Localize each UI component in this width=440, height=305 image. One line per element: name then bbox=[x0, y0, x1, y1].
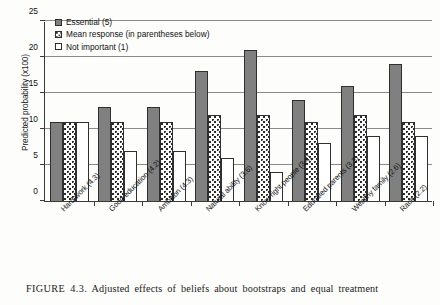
y-tick-label: 5 bbox=[33, 150, 38, 160]
x-tick-mark bbox=[385, 201, 386, 206]
bar bbox=[147, 107, 160, 201]
legend-swatch-icon bbox=[55, 31, 62, 38]
x-tick-mark bbox=[288, 201, 289, 206]
bar bbox=[50, 122, 63, 201]
chart-area: Predicted probability (x100) 0510152025 … bbox=[0, 0, 440, 272]
caption-body: Adjusted effects of beliefs about bootst… bbox=[92, 283, 379, 294]
bar bbox=[341, 86, 354, 201]
legend-item: Mean response (in parentheses below) bbox=[55, 28, 209, 40]
figure-container: Predicted probability (x100) 0510152025 … bbox=[0, 0, 440, 305]
bar bbox=[402, 122, 415, 201]
y-tick-label: 10 bbox=[29, 114, 38, 124]
legend-item: Not important (1) bbox=[55, 41, 209, 53]
x-tick-mark bbox=[433, 201, 434, 206]
bar bbox=[292, 100, 305, 201]
caption-figure-number: FIGURE 4.3. bbox=[26, 283, 87, 294]
bar bbox=[257, 115, 270, 201]
legend-label: Mean response (in parentheses below) bbox=[66, 28, 209, 40]
legend-item: Essential (5) bbox=[55, 16, 209, 28]
bar bbox=[98, 107, 111, 201]
y-tick-label: 25 bbox=[29, 6, 38, 16]
chart-legend: Essential (5)Mean response (in parenthes… bbox=[55, 16, 209, 53]
legend-label: Essential (5) bbox=[66, 16, 112, 28]
y-tick-label: 0 bbox=[33, 186, 38, 196]
x-tick-mark bbox=[94, 201, 95, 206]
figure-caption: FIGURE 4.3. Adjusted effects of beliefs … bbox=[26, 283, 421, 294]
legend-label: Not important (1) bbox=[66, 41, 128, 53]
bar bbox=[111, 122, 124, 201]
legend-swatch-icon bbox=[55, 19, 62, 26]
x-tick-mark bbox=[191, 201, 192, 206]
bar bbox=[208, 115, 221, 201]
bar bbox=[63, 122, 76, 201]
bar bbox=[195, 71, 208, 201]
x-tick-mark bbox=[336, 201, 337, 206]
y-tick-label: 20 bbox=[29, 42, 38, 52]
x-tick-mark bbox=[239, 201, 240, 206]
legend-swatch-icon bbox=[55, 43, 62, 50]
bar bbox=[160, 122, 173, 201]
y-tick-mark bbox=[40, 20, 45, 21]
bar bbox=[244, 50, 257, 201]
x-tick-mark bbox=[142, 201, 143, 206]
y-tick-label: 15 bbox=[29, 78, 38, 88]
bar bbox=[389, 64, 402, 201]
